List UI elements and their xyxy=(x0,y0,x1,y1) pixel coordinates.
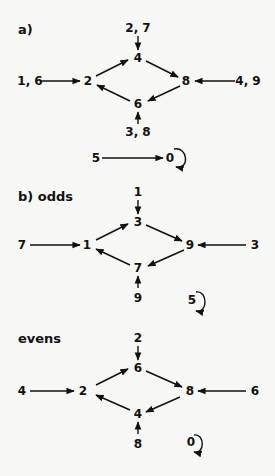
arrow-left-to-top xyxy=(96,60,128,76)
feeder-top: 2, 7 xyxy=(125,21,150,35)
panel-a-label: a) xyxy=(18,22,33,37)
node-right: 8 xyxy=(186,384,194,398)
arrow-bottom-to-left xyxy=(96,395,130,410)
arrow-bottom-to-left xyxy=(97,85,130,101)
node-right: 8 xyxy=(182,74,190,88)
feeder-left: 4 xyxy=(18,384,26,398)
arrow-right-to-bottom xyxy=(146,397,180,412)
node-bottom: 7 xyxy=(134,261,142,275)
arrow-top-to-right xyxy=(146,371,182,387)
arrow-top-to-right xyxy=(146,225,182,241)
feeder-bottom: 8 xyxy=(134,437,142,451)
self-loop-icon xyxy=(196,292,205,311)
node-left: 2 xyxy=(84,74,92,88)
feeder-right: 6 xyxy=(251,384,259,398)
feeder-top: 1 xyxy=(134,185,142,199)
arrow-top-to-right xyxy=(146,61,178,77)
fixed-node: 0 xyxy=(187,435,195,449)
arrow-left-to-top xyxy=(96,369,128,385)
feeder-left: 7 xyxy=(18,238,26,252)
diagram-canvas: a) 2, 7 4 1, 6 2 8 4, 9 6 3, 8 5 0 b) od… xyxy=(0,0,275,476)
self-loop-icon xyxy=(194,435,202,452)
feeder-bottom: 9 xyxy=(134,291,142,305)
feeder-left: 1, 6 xyxy=(17,74,42,88)
fixed-node: 5 xyxy=(188,293,196,307)
panel-a: a) 2, 7 4 1, 6 2 8 4, 9 6 3, 8 5 0 xyxy=(17,21,260,167)
panel-b-label: b) odds xyxy=(18,189,73,204)
node-right: 9 xyxy=(186,238,194,252)
node-top: 6 xyxy=(134,361,142,375)
feeder-right: 4, 9 xyxy=(235,74,260,88)
panel-b-odds: b) odds 1 3 7 1 9 3 7 9 5 xyxy=(18,185,259,311)
fixed-target: 0 xyxy=(166,151,174,165)
feeder-right: 3 xyxy=(251,238,259,252)
node-left: 2 xyxy=(79,384,87,398)
panel-c-evens: evens 2 6 4 2 8 6 4 8 0 xyxy=(18,331,259,452)
feeder-top: 2 xyxy=(134,331,142,345)
node-bottom: 6 xyxy=(134,97,142,111)
arrow-left-to-top xyxy=(96,224,128,240)
node-left: 1 xyxy=(83,238,91,252)
panel-c-label: evens xyxy=(18,331,61,346)
arrow-right-to-bottom xyxy=(148,250,184,266)
arrow-bottom-to-left xyxy=(96,249,130,265)
arrow-right-to-bottom xyxy=(148,86,180,101)
node-bottom: 4 xyxy=(134,407,142,421)
fixed-source: 5 xyxy=(92,151,100,165)
self-loop-icon xyxy=(174,149,186,168)
feeder-bottom: 3, 8 xyxy=(125,125,150,139)
node-top: 3 xyxy=(134,215,142,229)
node-top: 4 xyxy=(134,51,142,65)
